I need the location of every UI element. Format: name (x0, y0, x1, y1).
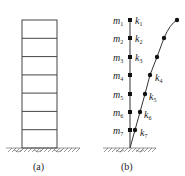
stiffness-label-6: k6 (144, 109, 151, 121)
stiffness-label-4: k4 (155, 72, 162, 84)
mass-label-5: m5 (113, 89, 123, 101)
mass-node (128, 92, 132, 96)
deformed-node (143, 92, 147, 96)
mass-label-1: m1 (113, 15, 123, 27)
mass-node (128, 128, 132, 132)
deformed-node (138, 110, 142, 114)
mass-label-7: m7 (113, 125, 123, 137)
stiffness-label-7: k7 (140, 127, 147, 139)
mass-label-6: m6 (113, 107, 123, 119)
stiffness-label-5: k5 (149, 91, 156, 103)
diagram-canvas: (a) m1 m2 m3 m4 m5 m6 m7 k1 k2 k3 (0, 0, 185, 176)
deformed-node (162, 36, 166, 40)
ground-hatch-b (103, 148, 156, 152)
frame-building (22, 20, 57, 148)
mass-node (128, 110, 132, 114)
caption-b: (b) (121, 161, 133, 173)
mass-label-2: m2 (113, 33, 123, 45)
mass-labels: m1 m2 m3 m4 m5 m6 m7 (113, 15, 123, 137)
caption-a: (a) (33, 161, 44, 173)
frame-outline (22, 20, 57, 148)
ground-hatch-a (6, 148, 80, 152)
mass-label-4: m4 (113, 70, 123, 82)
stiffness-label-1: k1 (135, 15, 142, 27)
mass-node (128, 18, 132, 22)
stiffness-labels: k1 k2 k3 k4 k5 k6 k7 (135, 15, 162, 139)
mass-node (128, 36, 132, 40)
deformed-node (133, 128, 137, 132)
mass-node (128, 55, 132, 59)
deformed-node (148, 73, 152, 77)
stiffness-label-2: k2 (135, 33, 142, 45)
deformed-node (175, 18, 179, 22)
mass-label-3: m3 (113, 52, 123, 64)
stiffness-label-3: k3 (135, 52, 142, 64)
deformed-node (155, 55, 159, 59)
mass-node (128, 73, 132, 77)
